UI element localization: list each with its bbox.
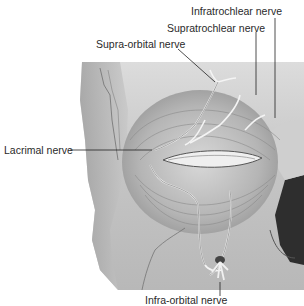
label-infra-orbital-nerve: Infra-orbital nerve (145, 294, 227, 306)
label-supratrochlear-nerve: Supratrochlear nerve (167, 22, 265, 34)
label-infratrochlear-nerve: Infratrochlear nerve (191, 5, 282, 17)
label-lacrimal-nerve: Lacrimal nerve (4, 144, 73, 156)
label-supra-orbital-nerve: Supra-orbital nerve (96, 38, 185, 50)
